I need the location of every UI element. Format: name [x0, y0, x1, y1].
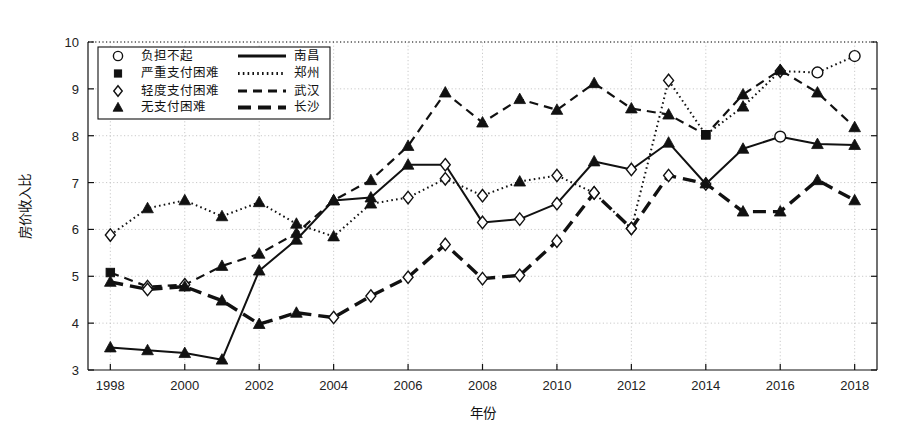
triangle-marker [514, 93, 526, 103]
x-tick-label: 2012 [617, 378, 646, 393]
legend-marker-label-triangle: 无支付困难 [141, 99, 206, 114]
circle-marker [113, 51, 122, 60]
x-tick-label: 2002 [245, 378, 274, 393]
y-tick-label: 4 [72, 316, 79, 331]
triangle-marker [812, 87, 824, 97]
diamond-marker [440, 173, 450, 185]
y-tick-label: 3 [72, 363, 79, 378]
triangle-marker [253, 196, 265, 206]
diamond-marker [664, 169, 674, 181]
triangle-marker [737, 88, 749, 98]
circle-marker [775, 131, 786, 142]
triangle-marker [514, 176, 526, 186]
triangle-marker [588, 77, 600, 87]
diamond-marker [366, 290, 376, 302]
triangle-marker [179, 194, 191, 204]
diamond-marker [403, 191, 413, 203]
legend: 负担不起严重支付困难轻度支付困难无支付困难南昌郑州武汉长沙 [98, 47, 330, 119]
triangle-marker [812, 174, 824, 184]
triangle-marker [588, 155, 600, 165]
triangle-marker [291, 227, 303, 237]
x-tick-label: 2014 [691, 378, 720, 393]
diamond-marker [105, 229, 115, 241]
diamond-marker [515, 213, 525, 225]
triangle-marker [663, 137, 675, 147]
legend-city-label-长沙: 长沙 [294, 99, 320, 114]
triangle-marker [365, 174, 377, 184]
x-tick-label: 2006 [394, 378, 423, 393]
square-marker [114, 70, 121, 77]
y-axis-title: 房价收入比 [17, 174, 33, 239]
legend-city-label-郑州: 郑州 [294, 65, 320, 80]
diamond-marker [552, 169, 562, 181]
triangle-marker [104, 341, 116, 351]
triangle-marker [551, 104, 563, 114]
triangle-marker [142, 202, 154, 212]
triangle-marker [849, 121, 861, 131]
y-tick-label: 5 [72, 269, 79, 284]
x-tick-label: 1998 [96, 378, 125, 393]
triangle-marker [626, 102, 638, 112]
triangle-marker [253, 248, 265, 258]
triangle-marker [737, 101, 749, 111]
legend-city-label-武汉: 武汉 [294, 83, 320, 98]
x-tick-label: 2008 [468, 378, 497, 393]
y-tick-label: 6 [72, 222, 79, 237]
triangle-marker [477, 117, 489, 127]
x-axis: 1998200020022004200620082010201220142016… [96, 364, 869, 393]
circle-marker [812, 67, 823, 78]
triangle-marker [439, 87, 451, 97]
legend-city-label-南昌: 南昌 [294, 48, 320, 63]
legend-marker-label-square: 严重支付困难 [141, 65, 219, 80]
price-to-income-ratio-chart: 3456789101998200020022004200620082010201… [0, 0, 902, 423]
diamond-marker [626, 163, 636, 175]
y-tick-label: 10 [65, 35, 79, 50]
diamond-marker [478, 272, 488, 284]
square-marker [702, 131, 710, 139]
x-tick-label: 2004 [319, 378, 348, 393]
x-tick-label: 2016 [766, 378, 795, 393]
triangle-marker [328, 230, 340, 240]
x-tick-label: 2018 [840, 378, 869, 393]
diamond-marker [478, 189, 488, 201]
triangle-marker [849, 194, 861, 204]
circle-marker [849, 51, 860, 62]
x-axis-title: 年份 [470, 405, 497, 421]
y-tick-label: 7 [72, 176, 79, 191]
y-tick-label: 8 [72, 129, 79, 144]
legend-marker-label-diamond: 轻度支付困难 [141, 83, 219, 98]
x-tick-label: 2000 [170, 378, 199, 393]
diamond-marker [329, 311, 339, 323]
legend-marker-label-circle: 负担不起 [141, 48, 193, 63]
chart-canvas: 3456789101998200020022004200620082010201… [0, 0, 902, 423]
x-tick-label: 2010 [542, 378, 571, 393]
y-tick-label: 9 [72, 82, 79, 97]
